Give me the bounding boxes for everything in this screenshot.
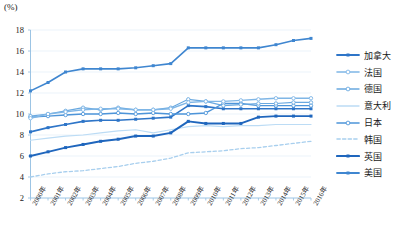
marker (152, 117, 155, 120)
marker (47, 81, 50, 84)
legend-swatch-icon (336, 167, 360, 179)
legend-swatch-icon (336, 83, 360, 95)
legend-item-法国[interactable]: 法国 (336, 64, 404, 81)
marker (99, 67, 102, 70)
marker (204, 100, 207, 103)
marker (309, 101, 312, 104)
marker (292, 39, 295, 42)
legend-item-德国[interactable]: 德国 (336, 81, 404, 98)
marker (169, 107, 172, 110)
marker (204, 122, 207, 125)
marker (99, 107, 102, 110)
marker (310, 37, 313, 40)
marker (169, 62, 172, 65)
legend-item-label: 意大利 (364, 99, 391, 112)
marker (169, 112, 172, 115)
marker (99, 112, 102, 115)
marker (29, 130, 32, 133)
y-tick-label: 2 (8, 193, 24, 203)
legend-item-意大利[interactable]: 意大利 (336, 97, 404, 114)
marker (29, 155, 32, 158)
marker (116, 111, 119, 114)
marker (274, 97, 277, 100)
health-expenditure-line-chart: (%) 24681012141618 2000年2001年2002年2003年2… (0, 0, 404, 238)
marker (204, 111, 207, 114)
marker (292, 97, 295, 100)
y-tick-label: 18 (8, 25, 24, 35)
marker (117, 67, 120, 70)
marker (81, 108, 84, 111)
marker (64, 110, 67, 113)
marker (257, 102, 260, 105)
marker (187, 112, 190, 115)
marker (187, 120, 190, 123)
marker (169, 131, 172, 134)
marker (134, 118, 137, 121)
marker (81, 112, 84, 115)
legend-item-label: 日本 (364, 116, 382, 129)
marker (134, 66, 137, 69)
marker (117, 138, 120, 141)
marker (64, 123, 67, 126)
marker (222, 122, 225, 125)
legend-item-韩国[interactable]: 韩国 (336, 131, 404, 148)
marker (257, 116, 260, 119)
marker (117, 119, 120, 122)
legend-swatch-icon (336, 100, 360, 112)
marker (257, 98, 260, 101)
marker (204, 46, 207, 49)
legend-swatch-icon (336, 66, 360, 78)
y-tick-label: 4 (8, 172, 24, 182)
marker (64, 71, 67, 74)
marker (257, 46, 260, 49)
marker (239, 46, 242, 49)
y-tick-label: 8 (8, 130, 24, 140)
y-tick-label: 16 (8, 46, 24, 56)
marker (29, 89, 32, 92)
legend-item-label: 加拿大 (364, 49, 391, 62)
marker (152, 135, 155, 138)
marker (99, 140, 102, 143)
marker (222, 100, 225, 103)
marker (239, 107, 242, 110)
marker (134, 135, 137, 138)
marker (274, 102, 277, 105)
marker (134, 112, 137, 115)
marker (187, 46, 190, 49)
marker (222, 46, 225, 49)
legend-item-label: 德国 (364, 82, 382, 95)
marker (274, 43, 277, 46)
marker (82, 67, 85, 70)
legend-item-label: 韩国 (364, 133, 382, 146)
legend-item-日本[interactable]: 日本 (336, 114, 404, 131)
marker (152, 108, 155, 111)
marker (116, 107, 119, 110)
marker (82, 143, 85, 146)
marker (292, 101, 295, 104)
marker (82, 120, 85, 123)
marker (309, 97, 312, 100)
chart-legend: 加拿大法国德国意大利日本韩国英国美国 (336, 47, 404, 181)
marker (134, 108, 137, 111)
marker (47, 126, 50, 129)
marker (310, 115, 313, 118)
y-tick-label: 10 (8, 109, 24, 119)
marker (274, 115, 277, 118)
marker (239, 103, 242, 106)
y-tick-label: 12 (8, 88, 24, 98)
marker (292, 115, 295, 118)
legend-item-加拿大[interactable]: 加拿大 (336, 47, 404, 64)
marker (152, 64, 155, 67)
marker (222, 104, 225, 107)
marker (204, 105, 207, 108)
marker (99, 119, 102, 122)
marker (47, 150, 50, 153)
marker (29, 117, 32, 120)
legend-swatch-icon (336, 49, 360, 61)
legend-swatch-icon (336, 133, 360, 145)
legend-item-label: 英国 (364, 150, 382, 163)
marker (239, 122, 242, 125)
legend-item-美国[interactable]: 美国 (336, 165, 404, 182)
legend-item-英国[interactable]: 英国 (336, 148, 404, 165)
marker (239, 99, 242, 102)
